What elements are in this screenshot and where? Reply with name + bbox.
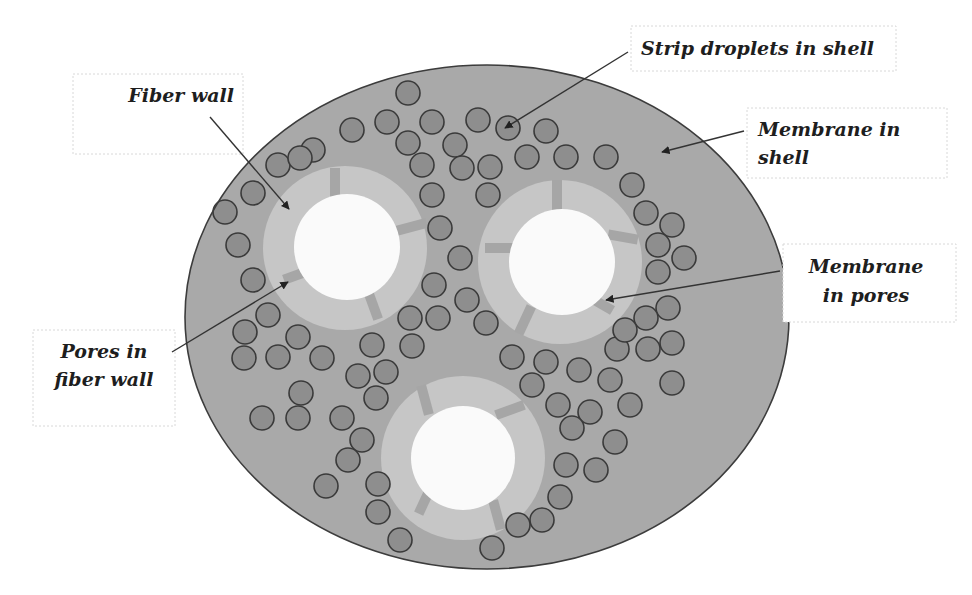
label-text: Membrane	[808, 255, 924, 277]
strip-droplet	[455, 288, 479, 312]
strip-droplet	[546, 393, 570, 417]
strip-droplet	[428, 216, 452, 240]
label-text: Fiber wall	[127, 84, 234, 106]
strip-droplet	[598, 368, 622, 392]
strip-droplet	[660, 331, 684, 355]
fiber-top-right	[478, 180, 642, 344]
strip-droplet	[560, 416, 584, 440]
strip-droplet	[466, 108, 490, 132]
strip-droplet	[554, 453, 578, 477]
strip-droplet	[515, 145, 539, 169]
strip-droplet	[233, 320, 257, 344]
label-text: in pores	[823, 284, 910, 306]
strip-droplet	[360, 333, 384, 357]
strip-droplet	[656, 296, 680, 320]
strip-droplet	[534, 350, 558, 374]
strip-droplet	[660, 371, 684, 395]
strip-droplet	[250, 406, 274, 430]
strip-droplet	[364, 386, 388, 410]
strip-droplet	[330, 406, 354, 430]
label-pores-fiber-wall: Pores in fiber wall	[33, 330, 175, 426]
strip-droplet	[396, 131, 420, 155]
strip-droplet	[398, 306, 422, 330]
strip-droplet	[374, 360, 398, 384]
strip-droplet	[506, 513, 530, 537]
fiber-lumen	[411, 406, 515, 510]
label-fiber-wall: Fiber wall	[73, 74, 243, 154]
strip-droplet	[266, 345, 290, 369]
strip-droplet	[289, 381, 313, 405]
label-membrane-pores: Membrane in pores	[783, 244, 956, 322]
strip-droplet	[567, 358, 591, 382]
strip-droplet	[672, 246, 696, 270]
strip-droplet	[366, 500, 390, 524]
label-text: Strip droplets in shell	[641, 37, 874, 59]
strip-droplet	[340, 118, 364, 142]
fiber-lumen	[294, 194, 400, 300]
pore	[552, 180, 562, 212]
strip-droplet	[375, 110, 399, 134]
strip-droplet	[241, 181, 265, 205]
strip-droplet	[350, 428, 374, 452]
strip-droplet	[232, 346, 256, 370]
strip-droplet	[530, 508, 554, 532]
strip-droplet	[603, 430, 627, 454]
strip-droplet	[420, 110, 444, 134]
strip-droplet	[256, 303, 280, 327]
strip-droplet	[388, 528, 412, 552]
strip-droplet	[241, 268, 265, 292]
strip-droplet	[534, 119, 558, 143]
label-membrane-shell: Membrane in shell	[747, 108, 947, 178]
strip-droplet	[266, 153, 290, 177]
label-text: shell	[757, 146, 809, 168]
strip-droplet	[496, 116, 520, 140]
strip-droplet	[618, 393, 642, 417]
strip-droplet	[646, 233, 670, 257]
strip-droplet	[476, 183, 500, 207]
label-text: fiber wall	[53, 368, 154, 390]
label-text: Membrane in	[757, 118, 900, 140]
strip-droplet	[548, 485, 572, 509]
strip-droplet	[634, 306, 658, 330]
strip-droplet	[336, 448, 360, 472]
strip-droplet	[636, 337, 660, 361]
strip-droplet	[310, 346, 334, 370]
strip-droplet	[480, 536, 504, 560]
strip-droplet	[520, 373, 544, 397]
strip-droplet	[286, 406, 310, 430]
strip-droplet	[226, 233, 250, 257]
strip-droplet	[500, 345, 524, 369]
fiber-top-left	[263, 166, 428, 330]
strip-droplet	[554, 145, 578, 169]
strip-droplet	[346, 364, 370, 388]
strip-droplet	[410, 153, 434, 177]
strip-droplet	[366, 472, 390, 496]
hollow-fiber-diagram: Fiber wall Strip droplets in shell Membr…	[0, 0, 972, 595]
label-text: Pores in	[60, 340, 148, 362]
strip-droplet	[400, 334, 424, 358]
strip-droplet	[443, 133, 467, 157]
strip-droplet	[426, 306, 450, 330]
strip-droplet	[584, 458, 608, 482]
strip-droplet	[450, 156, 474, 180]
strip-droplet	[396, 81, 420, 105]
strip-droplet	[448, 246, 472, 270]
strip-droplet	[660, 213, 684, 237]
strip-droplet	[474, 311, 498, 335]
strip-droplet	[646, 260, 670, 284]
strip-droplet	[288, 146, 312, 170]
strip-droplet	[594, 145, 618, 169]
label-strip-droplets: Strip droplets in shell	[631, 26, 896, 71]
pore	[330, 168, 340, 198]
strip-droplet	[634, 201, 658, 225]
strip-droplet	[314, 474, 338, 498]
strip-droplet	[620, 173, 644, 197]
strip-droplet	[420, 183, 444, 207]
strip-droplet	[478, 155, 502, 179]
strip-droplet	[422, 273, 446, 297]
strip-droplet	[286, 325, 310, 349]
strip-droplet	[613, 318, 637, 342]
fiber-lumen	[509, 209, 615, 315]
